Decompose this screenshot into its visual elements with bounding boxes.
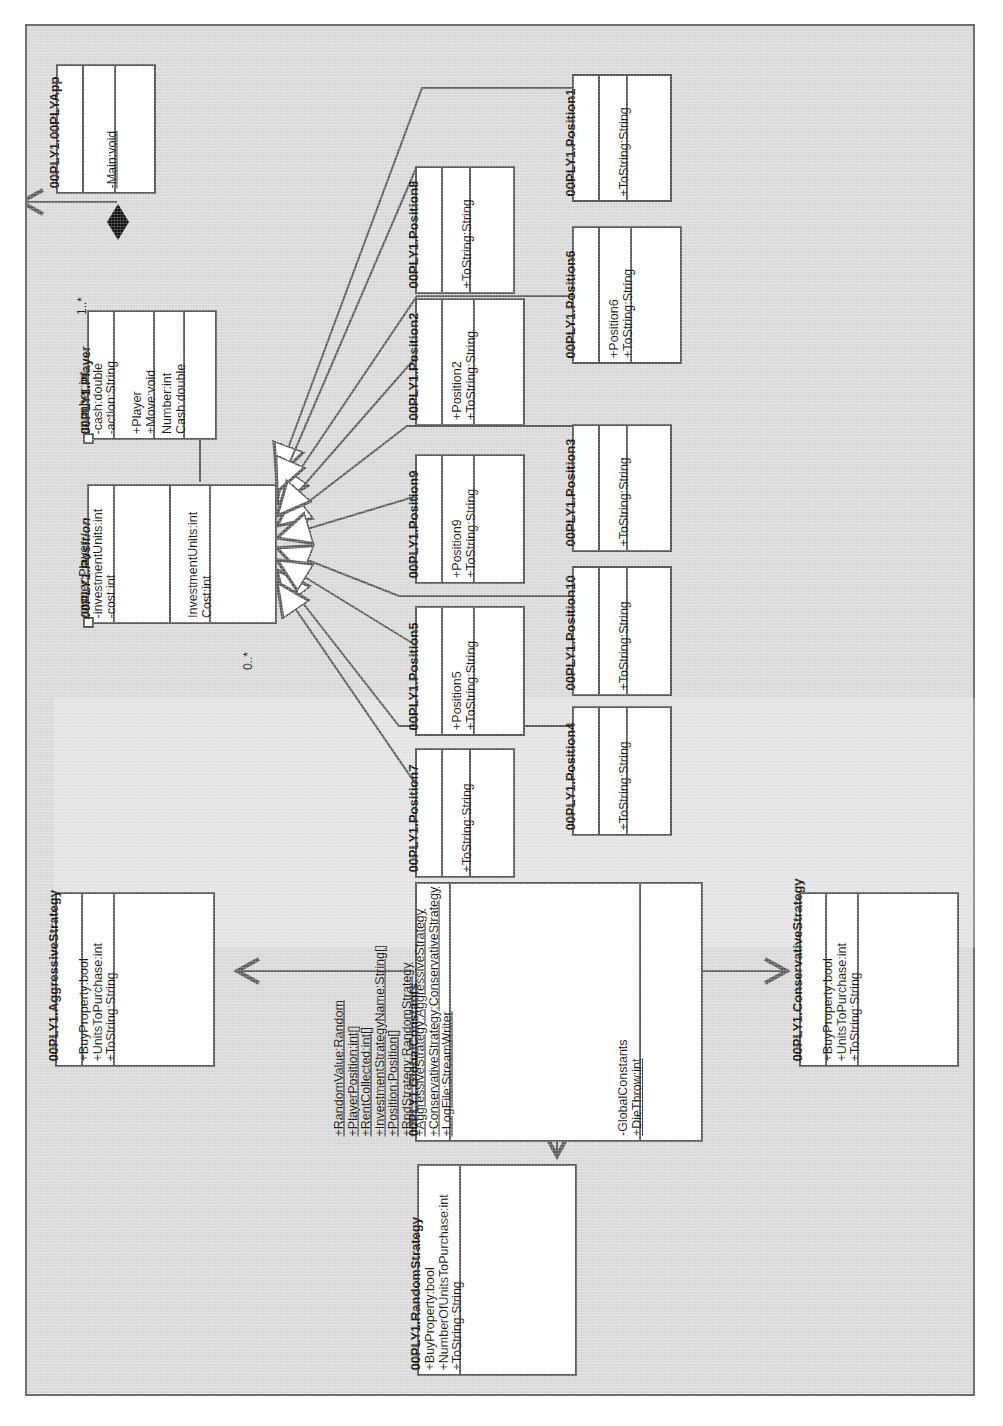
method-item: +Position6 bbox=[608, 269, 622, 358]
attribute-item: +RndStrategy:RandomStrategy bbox=[400, 886, 414, 1136]
method-item: +ToString:String bbox=[461, 199, 475, 288]
class-name: 00PLY1.Position1 bbox=[564, 88, 578, 196]
class-aggressivestrategy[interactable]: 00PLY1.AggressiveStrategy +BuyProperty:b… bbox=[55, 892, 215, 1067]
attributes-compartment: +RandomValue:Random +PlayerPosition:int[… bbox=[451, 884, 641, 1140]
class-conservativestrategy[interactable]: 00PLY1.ConservativeStrategy +BuyProperty… bbox=[799, 892, 959, 1067]
method-item: +ToString:String bbox=[618, 107, 632, 196]
class-00plyapp[interactable]: 00PLY1.00PLYApp -Main:void bbox=[56, 64, 156, 194]
property-item: Number:int bbox=[161, 364, 175, 434]
class-position1[interactable]: 00PLY1.Position1 +ToString:String bbox=[572, 74, 672, 202]
property-item: Cash:double bbox=[175, 364, 189, 434]
method-item: +UnitsToPurchase:int bbox=[835, 943, 849, 1061]
class-position9[interactable]: 00PLY1.Position9 +Position9 +ToString:St… bbox=[415, 454, 525, 584]
attribute-item: -cost:int bbox=[105, 508, 119, 618]
method-item: +ToString:String bbox=[618, 457, 632, 546]
attribute-item: +InvestmentStrategyName:String[] bbox=[373, 886, 387, 1136]
class-position6[interactable]: 00PLY1.Position6 +Position6 +ToString:St… bbox=[572, 226, 682, 364]
class-name: 00PLY1.AggressiveStrategy bbox=[47, 889, 61, 1061]
class-name: 00PLY1.ConservativeStrategy bbox=[791, 878, 805, 1061]
methods-compartment: +Position6 +ToString:String bbox=[632, 228, 680, 362]
property-item: InvestmentUnits:int bbox=[187, 512, 201, 618]
method-item: +ToString:String bbox=[618, 601, 632, 690]
method-item: +Position2 bbox=[451, 331, 465, 420]
attribute-item: -cash:double bbox=[91, 360, 105, 434]
attribute-item: +RandomValue:Random bbox=[333, 886, 347, 1136]
methods-compartment: -GlobalConstants +DieThrow:int bbox=[641, 884, 701, 1140]
property-item: Cost:int bbox=[201, 512, 215, 618]
method-item: +ToString:String bbox=[465, 489, 479, 578]
method-item: +BuyProperty:bool bbox=[424, 1194, 438, 1370]
method-item: +ToString:String bbox=[465, 331, 479, 420]
class-name-compartment: 00PLY1.00PLYApp bbox=[58, 66, 84, 192]
attribute-item: +RentCollected:int[] bbox=[360, 886, 374, 1136]
class-globalconstants[interactable]: 00PLY1.GlobalConstants +RandomValue:Rand… bbox=[415, 882, 703, 1142]
methods-compartment: +BuyProperty:bool +UnitsToPurchase:int +… bbox=[115, 894, 213, 1065]
class-name: 00PLY1.Position4 bbox=[564, 722, 578, 830]
method-item: +UnitsToPurchase:int bbox=[91, 943, 105, 1061]
method-item: +ToString:String bbox=[461, 783, 475, 872]
class-name: 00PLY1.Position6 bbox=[564, 250, 578, 358]
methods-compartment: +ToString:String bbox=[628, 426, 670, 550]
class-name: 00PLY1.Position8 bbox=[407, 180, 421, 288]
methods-compartment: +ToString:String bbox=[628, 708, 670, 834]
properties-compartment: InvestmentUnits:int Cost:int bbox=[211, 486, 275, 622]
class-position2[interactable]: 00PLY1.Position2 +Position2 +ToString:St… bbox=[415, 298, 525, 426]
method-item: +Move:void bbox=[145, 370, 159, 434]
method-item: +Player bbox=[131, 370, 145, 434]
attribute-item: +PlayerPosition:int[] bbox=[346, 886, 360, 1136]
methods-compartment: +ToString:String bbox=[471, 168, 513, 292]
class-position3[interactable]: 00PLY1.Position3 +ToString:String bbox=[572, 424, 672, 552]
attributes-compartment: -owner:Player -investmentUnits:int -cost… bbox=[115, 486, 171, 622]
class-name: 00PLY1.Position9 bbox=[407, 470, 421, 578]
method-item: +ToString:String bbox=[105, 943, 119, 1061]
method-item: +BuyProperty:bool bbox=[78, 943, 92, 1061]
methods-compartment: +BuyProperty:bool +NumberOfUnitsToPurcha… bbox=[461, 1166, 579, 1374]
method-item: +ToString:String bbox=[618, 741, 632, 830]
attribute-item: -number:int bbox=[78, 360, 92, 434]
method-item: +DieThrow:int bbox=[631, 1039, 645, 1136]
methods-compartment: +Position5 +ToString:String bbox=[475, 608, 523, 734]
attribute-item: -owner:Player bbox=[78, 508, 92, 618]
properties-compartment: Number:int Cash:double bbox=[185, 312, 219, 438]
class-name: 00PLY1.Position10 bbox=[564, 575, 578, 690]
methods-compartment: -Main:void bbox=[116, 66, 154, 192]
method-item: -Main:void bbox=[106, 130, 120, 188]
attribute-item: +Position:Position[] bbox=[387, 886, 401, 1136]
class-name: 00PLY1.00PLYApp bbox=[48, 76, 62, 188]
methods-compartment: +ToString:String bbox=[628, 568, 670, 694]
class-position10[interactable]: 00PLY1.Position10 +ToString:String bbox=[572, 566, 672, 696]
class-name: 00PLY1.Position7 bbox=[407, 764, 421, 872]
method-item: +ToString:String bbox=[451, 1194, 465, 1370]
class-name: 00PLY1.Position2 bbox=[407, 312, 421, 420]
diagram-canvas: 1..* 0..* 00PLY1.00PLYApp -Main:void 00P… bbox=[0, 0, 1003, 1426]
attribute-item: +ConservativeStrategy:ConservativeStrate… bbox=[427, 886, 441, 1136]
class-player[interactable]: 00PLY1.Player -number:int -cash:double -… bbox=[87, 310, 217, 440]
class-position8[interactable]: 00PLY1.Position8 +ToString:String bbox=[415, 166, 515, 294]
class-position5[interactable]: 00PLY1.Position5 +Position5 +ToString:St… bbox=[415, 606, 525, 736]
attribute-item: -action:String bbox=[105, 360, 119, 434]
method-item: +BuyProperty:bool bbox=[822, 943, 836, 1061]
attribute-item: +AggressiveStrategy:AggressiveStrategy bbox=[414, 886, 428, 1136]
method-item: +ToString:String bbox=[849, 943, 863, 1061]
method-item: +ToString:String bbox=[622, 269, 636, 358]
method-item: +Position9 bbox=[451, 489, 465, 578]
class-name: 00PLY1.Position5 bbox=[407, 622, 421, 730]
methods-compartment: +Position9 +ToString:String bbox=[475, 456, 523, 582]
attribute-item: -investmentUnits:int bbox=[91, 508, 105, 618]
multiplicity-position: 0..* bbox=[241, 652, 255, 670]
class-randomstrategy[interactable]: 00PLY1.RandomStrategy +BuyProperty:bool … bbox=[417, 1164, 577, 1376]
class-name: 00PLY1.Position3 bbox=[564, 438, 578, 546]
class-position4[interactable]: 00PLY1.Position4 +ToString:String bbox=[572, 706, 672, 836]
class-position7[interactable]: 00PLY1.Position7 +ToString:String bbox=[415, 748, 515, 878]
method-item: +NumberOfUnitsToPurchase:int bbox=[437, 1194, 451, 1370]
class-position[interactable]: 00PLY1.Position -owner:Player -investmen… bbox=[87, 484, 277, 624]
methods-compartment: +ToString:String bbox=[628, 76, 670, 200]
class-name: 00PLY1.RandomStrategy bbox=[409, 1217, 423, 1370]
methods-compartment: +ToString:String bbox=[471, 750, 513, 876]
method-item: -GlobalConstants bbox=[617, 1039, 631, 1136]
methods-compartment: +Position2 +ToString:String bbox=[475, 300, 523, 424]
method-item: +ToString:String bbox=[465, 641, 479, 730]
method-item: +Position5 bbox=[451, 641, 465, 730]
attribute-item: +LogFile:StreamWriter bbox=[441, 886, 455, 1136]
methods-compartment: +BuyProperty:bool +UnitsToPurchase:int +… bbox=[859, 894, 957, 1065]
